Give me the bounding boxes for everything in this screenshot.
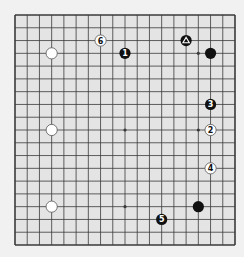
move-number-label: 2 [208,126,214,135]
black-stone [181,35,192,46]
white-stone-circle [46,48,57,59]
white-stone-4: 4 [205,163,216,174]
white-stone-6: 6 [95,35,106,46]
move-number-label: 4 [208,164,214,173]
go-board-diagram: 123456 [0,0,244,257]
black-stone-3: 3 [205,99,216,110]
black-stone-circle [205,48,216,59]
move-number-label: 1 [122,49,128,58]
white-stone [46,201,57,212]
move-number-label: 3 [208,100,214,109]
white-stone-circle [46,124,57,135]
black-stone-circle [193,201,204,212]
go-board: 123456 [0,0,244,257]
star-point [197,128,200,131]
black-stone [193,201,204,212]
black-stone-5: 5 [156,214,167,225]
white-stone-2: 2 [205,124,216,135]
black-stone [205,48,216,59]
black-stone-1: 1 [119,48,130,59]
star-point [197,52,200,55]
star-point [123,128,126,131]
white-stone [46,124,57,135]
white-stone-circle [46,201,57,212]
move-number-label: 5 [159,215,165,224]
move-number-label: 6 [98,37,104,46]
star-point [123,205,126,208]
white-stone [46,48,57,59]
